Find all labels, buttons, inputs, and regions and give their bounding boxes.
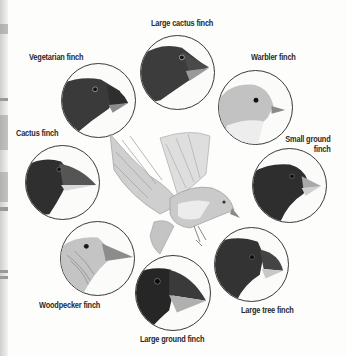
finch-head-small-ground-icon <box>253 149 326 222</box>
central-flying-finch-icon <box>100 118 245 258</box>
label-large-tree-finch: Large tree finch <box>241 305 294 315</box>
circle-large-cactus-finch <box>140 35 215 110</box>
label-woodpecker-finch: Woodpecker finch <box>39 300 100 310</box>
label-vegetarian-finch: Vegetarian finch <box>29 52 83 62</box>
label-large-cactus-finch: Large cactus finch <box>151 18 213 28</box>
label-large-ground-finch: Large ground finch <box>140 334 204 344</box>
label-warbler-finch: Warbler finch <box>251 52 296 62</box>
circle-small-ground-finch <box>252 148 327 223</box>
circle-large-ground-finch <box>135 255 211 331</box>
book-page-edge <box>0 0 8 356</box>
label-cactus-finch: Cactus finch <box>16 128 58 138</box>
label-small-ground-finch-line1: Small ground <box>286 134 331 144</box>
finch-head-large-cactus-icon <box>141 36 214 109</box>
circle-cactus-finch <box>25 145 100 220</box>
finch-head-cactus-icon <box>26 146 99 219</box>
finch-head-large-ground-icon <box>136 256 210 330</box>
